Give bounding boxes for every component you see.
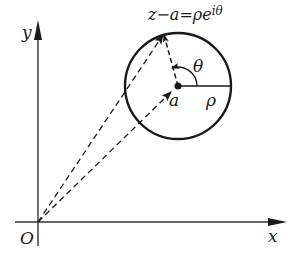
y-axis-arrow-icon [34, 20, 42, 40]
complex-plane-diagram: y x O a ρ θ z−a=ρeiθ [0, 0, 291, 277]
y-axis-label: y [21, 22, 32, 42]
x-axis-arrow-icon [268, 218, 287, 226]
radius-label: ρ [205, 90, 216, 110]
z-vector [38, 35, 163, 222]
y-axis [34, 20, 42, 246]
origin-label: O [20, 228, 34, 248]
center-label: a [169, 90, 179, 110]
formula-label: z−a=ρeiθ [147, 4, 223, 24]
x-axis-label: x [268, 226, 278, 246]
a-vector [38, 92, 171, 222]
x-axis [15, 218, 287, 226]
angle-label: θ [193, 56, 203, 76]
z-minus-a-vector [164, 35, 178, 86]
